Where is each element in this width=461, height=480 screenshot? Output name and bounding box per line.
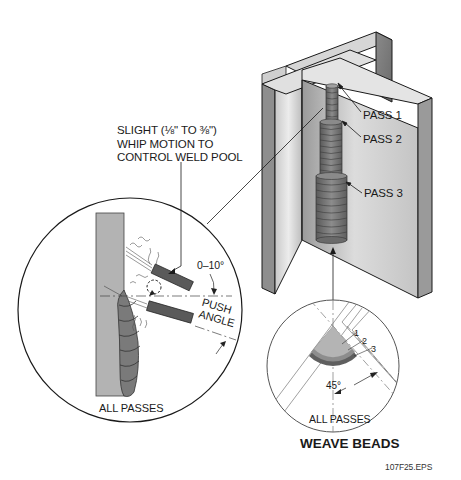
callout-line-3: CONTROL WELD POOL: [117, 151, 243, 165]
pass-2-bead: [320, 122, 342, 178]
callout-line-2: WHIP MOTION TO: [117, 138, 243, 152]
pass-3-label: PASS 3: [364, 187, 403, 201]
right-detail-circle: [262, 298, 420, 432]
diagram-canvas: [0, 0, 461, 480]
right-pass-number-1: 1: [354, 327, 359, 341]
callout-line-1: SLIGHT (⅛" TO ⅜"): [117, 124, 243, 138]
whip-motion-callout: SLIGHT (⅛" TO ⅜") WHIP MOTION TO CONTROL…: [117, 124, 243, 165]
t-joint-3d: [262, 32, 432, 298]
pass-1-label: PASS 1: [363, 109, 402, 123]
left-caption: ALL PASSES: [99, 402, 163, 416]
right-caption: ALL PASSES: [309, 413, 370, 427]
angle-range-label: 0–10°: [197, 259, 224, 273]
angle-45-label: 45°: [326, 379, 341, 393]
left-plate-edge: [262, 84, 275, 294]
weave-beads-diagram: SLIGHT (⅛" TO ⅜") WHIP MOTION TO CONTROL…: [0, 0, 461, 480]
pass-3-bead: [316, 176, 347, 240]
left-plate-face: [275, 80, 302, 294]
left-detail-circle: [18, 162, 242, 422]
figure-title: WEAVE BEADS: [300, 437, 400, 451]
right-pass-number-2: 2: [362, 335, 367, 349]
right-plate-edge: [418, 98, 432, 298]
figure-file-id: 107F25.EPS: [385, 461, 432, 475]
right-pass-number-3: 3: [371, 343, 376, 357]
pass-2-label: PASS 2: [363, 133, 402, 147]
